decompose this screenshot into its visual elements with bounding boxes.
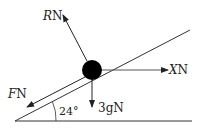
X-unit: N [178, 63, 189, 77]
force-R-label: RN [43, 10, 63, 22]
force-weight-label: 3gN [98, 102, 124, 114]
X-symbol: X [169, 63, 178, 77]
force-R-arrow [63, 15, 87, 61]
angle-label: 24° [59, 106, 79, 117]
force-diagram: RN XN FN 3gN 24° [0, 0, 203, 128]
force-X-label: XN [169, 64, 188, 76]
force-F-arrow [27, 77, 85, 107]
R-unit: N [52, 9, 63, 23]
angle-arc [53, 102, 57, 121]
R-symbol: R [43, 9, 52, 23]
force-F-label: FN [8, 88, 27, 100]
particle-ball [82, 60, 102, 80]
F-unit: N [16, 87, 27, 101]
